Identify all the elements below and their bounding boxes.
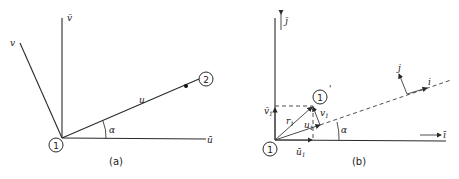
v-axis xyxy=(20,43,62,138)
alpha-arc-b xyxy=(337,122,339,140)
label-alpha: α xyxy=(109,125,115,135)
label-i-bar: ī xyxy=(443,130,447,140)
label-u-bar: ū xyxy=(207,135,213,145)
label-u1: u1 xyxy=(304,120,314,131)
label-v: v xyxy=(10,38,15,48)
label-j-local: j xyxy=(396,63,401,73)
label-u1-bar: ū1 xyxy=(296,147,306,158)
u-axis-element xyxy=(62,79,199,138)
node-1-prime-label: 1 xyxy=(317,93,323,103)
label-j-bar: j̄ xyxy=(283,16,289,26)
label-u: u xyxy=(139,95,145,105)
caption-a: (a) xyxy=(109,156,123,167)
node-2-label: 2 xyxy=(203,75,209,85)
node-1-label: 1 xyxy=(53,141,59,151)
label-alpha-b: α xyxy=(341,125,347,135)
alpha-arc xyxy=(103,121,106,139)
v1-vector xyxy=(313,107,320,125)
label-v1: v1 xyxy=(320,108,329,119)
local-i-axis-dashed xyxy=(320,80,451,125)
local-j-arrow xyxy=(399,74,407,94)
panel-b: j̄ ī j i α r1 u1 v1 ū1 v̄1 1 1 ' (b) xyxy=(263,14,451,167)
caption-b: (b) xyxy=(352,156,366,167)
diagram-canvas: v̄ v u ū α 1 2 (a) j̄ ī j i α r1 u1 xyxy=(0,0,459,179)
element-node-dot xyxy=(184,84,188,88)
label-r1: r1 xyxy=(286,116,294,127)
panel-a: v̄ v u ū α 1 2 (a) xyxy=(10,13,213,167)
label-v-bar: v̄ xyxy=(67,13,72,23)
u-bar-axis xyxy=(62,138,206,139)
prime-mark: ' xyxy=(329,84,331,94)
label-v1-bar: v̄1 xyxy=(264,106,273,117)
local-i-arrow xyxy=(407,88,427,94)
label-i-local: i xyxy=(428,77,431,87)
node-1b-label: 1 xyxy=(267,145,273,155)
